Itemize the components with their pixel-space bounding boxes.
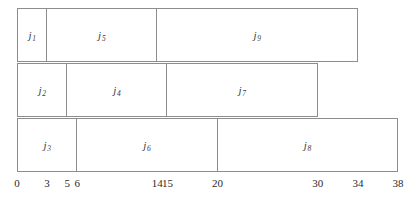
gantt-bar-label: j6 bbox=[143, 140, 150, 151]
gantt-bar-label: j7 bbox=[238, 85, 245, 96]
x-axis-tick-label: 20 bbox=[212, 176, 223, 190]
x-axis-tick-label: 30 bbox=[312, 176, 323, 190]
gantt-bar: j6 bbox=[76, 118, 217, 172]
gantt-chart: j1j5j9 j2j4j7 j3j6j8 0356141520303438 bbox=[0, 0, 418, 204]
gantt-bar: j8 bbox=[217, 118, 398, 172]
gantt-bar: j3 bbox=[17, 118, 77, 172]
x-axis-tick-label: 5 bbox=[64, 176, 70, 190]
x-axis-tick-label: 3 bbox=[44, 176, 50, 190]
gantt-bar: j7 bbox=[166, 63, 317, 117]
gantt-plot-area: j1j5j9 j2j4j7 j3j6j8 0356141520303438 bbox=[0, 0, 418, 204]
gantt-bar: j1 bbox=[17, 8, 47, 62]
gantt-bar: j5 bbox=[46, 8, 157, 62]
x-axis-tick-label: 15 bbox=[162, 176, 173, 190]
gantt-bar: j9 bbox=[156, 8, 358, 62]
gantt-bar: j2 bbox=[17, 63, 67, 117]
gantt-row: j1j5j9 bbox=[0, 8, 418, 62]
x-axis-tick-label: 34 bbox=[352, 176, 363, 190]
gantt-bar-label: j5 bbox=[98, 30, 105, 41]
gantt-bar-label: j8 bbox=[304, 140, 311, 151]
x-axis: 0356141520303438 bbox=[0, 176, 418, 198]
gantt-bar-label: j4 bbox=[113, 85, 120, 96]
gantt-bar-label: j9 bbox=[254, 30, 261, 41]
x-axis-tick-label: 38 bbox=[393, 176, 404, 190]
x-axis-tick-label: 0 bbox=[14, 176, 20, 190]
x-axis-tick-label: 6 bbox=[74, 176, 80, 190]
gantt-bar-label: j2 bbox=[38, 85, 45, 96]
gantt-bar-label: j1 bbox=[28, 30, 35, 41]
gantt-bar-label: j3 bbox=[43, 140, 50, 151]
gantt-row: j2j4j7 bbox=[0, 63, 418, 117]
gantt-row: j3j6j8 bbox=[0, 118, 418, 172]
gantt-bar: j4 bbox=[66, 63, 167, 117]
